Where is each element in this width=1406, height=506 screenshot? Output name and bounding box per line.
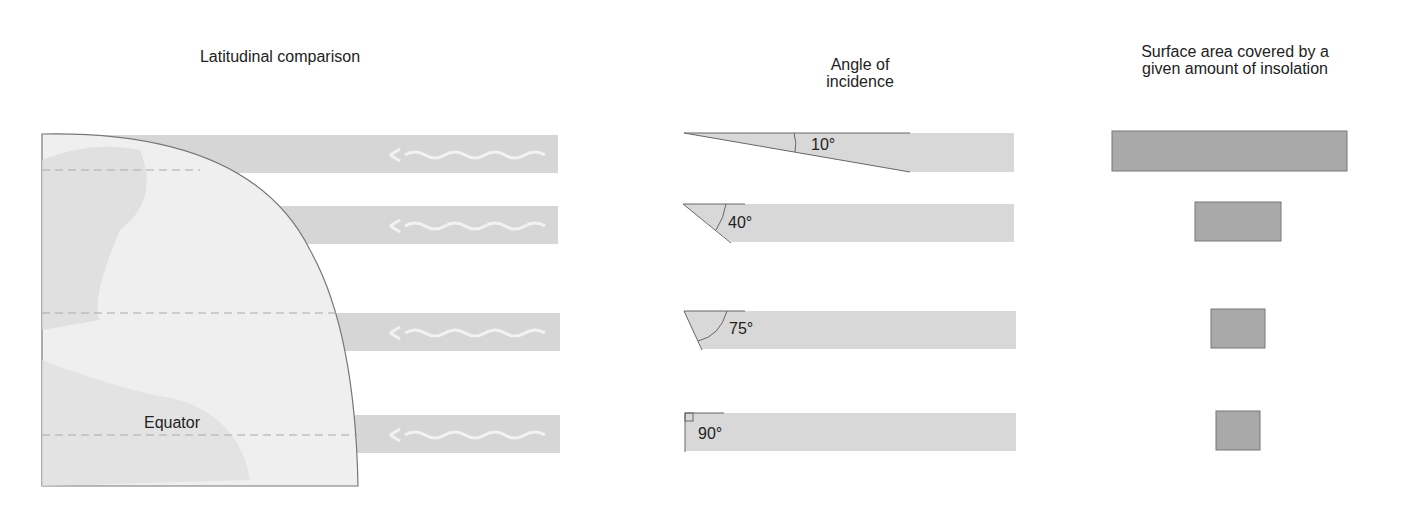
angle-label-10: 10° — [811, 136, 835, 154]
equator-label: Equator — [144, 414, 200, 432]
area-rectangles — [1112, 131, 1347, 450]
angle-label-40: 40° — [728, 214, 752, 232]
angle-diagrams — [683, 133, 1016, 452]
globe — [42, 134, 358, 486]
wavy-arrow-icons — [390, 149, 545, 441]
angle-label-75: 75° — [729, 320, 753, 338]
angle-label-90: 90° — [698, 425, 722, 443]
